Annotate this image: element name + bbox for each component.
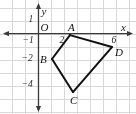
polygon-edge-bc bbox=[52, 59, 73, 92]
vertex-label-d: D bbox=[115, 47, 123, 58]
y-axis-label: y bbox=[41, 6, 46, 17]
y-tick-label-neg4: −4 bbox=[21, 80, 32, 90]
x-axis-arrowhead bbox=[127, 31, 133, 36]
vertex-label-c: C bbox=[70, 95, 77, 106]
x-axis-arrowhead-left bbox=[3, 31, 9, 36]
x-tick-label-2: 2 bbox=[59, 36, 64, 46]
vertex-label-a: A bbox=[68, 22, 75, 33]
vertex-label-b: B bbox=[40, 54, 47, 65]
origin-label: O bbox=[40, 22, 48, 33]
y-axis-arrowhead-down bbox=[36, 106, 41, 112]
x-axis-label: x bbox=[121, 22, 126, 33]
polygon-edge-da bbox=[70, 35, 112, 47]
y-tick-label-neg1: −1 bbox=[22, 36, 33, 46]
coordinate-plane-figure: x y O 2 6 1 −1 −2 −4 A B C D bbox=[0, 0, 136, 114]
polygon-edge-cd bbox=[73, 47, 112, 92]
x-tick-label-6: 6 bbox=[111, 36, 116, 46]
y-tick-label-1: 1 bbox=[28, 15, 33, 25]
y-tick-label-neg2: −2 bbox=[21, 54, 32, 64]
